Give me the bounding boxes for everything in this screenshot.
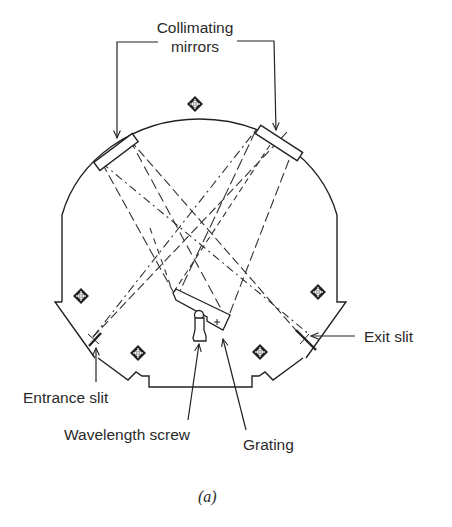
collimating-mirrors-label: Collimating mirrors [145, 20, 245, 54]
screw-icon [252, 344, 268, 360]
figure-caption: (a) [198, 488, 217, 506]
label-leaders [96, 41, 355, 430]
monochromator-diagram: Collimating mirrors Exit slit Entrance s… [0, 0, 452, 527]
exit-slit [296, 330, 316, 350]
screw-icon [187, 96, 203, 112]
screw-icon [310, 284, 326, 300]
wavelength-screw [193, 311, 206, 342]
collimating-label-line1: Collimating [145, 20, 245, 36]
diagram-drawing [0, 0, 452, 527]
collimating-label-line2: mirrors [145, 39, 245, 55]
screw-icon [73, 288, 89, 304]
left-collimating-mirror [94, 134, 138, 171]
entrance-slit-label: Entrance slit [23, 390, 108, 406]
exit-slit-label: Exit slit [364, 329, 413, 345]
screw-icon [130, 345, 146, 361]
wavelength-screw-label: Wavelength screw [64, 427, 190, 443]
right-collimating-mirror [255, 125, 302, 161]
grating-label: Grating [243, 437, 294, 453]
